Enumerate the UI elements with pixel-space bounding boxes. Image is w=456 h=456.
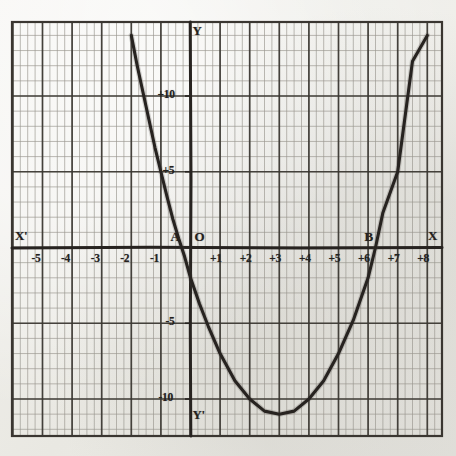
graph-figure: -5-4-3-2-1+1+2+3+4+5+6+7+8+10+5-5-10YY'X… xyxy=(0,0,456,456)
x-tick-label-plus5: +5 xyxy=(329,252,341,264)
x-tick-label-minus5: -5 xyxy=(32,252,41,264)
x-axis-name: X xyxy=(428,228,437,244)
x-tick-label-minus3: -3 xyxy=(91,252,100,264)
y-tick-label-plus10: +10 xyxy=(158,88,175,100)
y-tick-label-minus5: -5 xyxy=(166,315,175,327)
y-axis-name: Y xyxy=(193,23,202,39)
point-label-A: A xyxy=(171,229,180,245)
parabola-curve xyxy=(0,0,456,456)
x-tick-label-plus4: +4 xyxy=(299,252,311,264)
x-tick-label-plus3: +3 xyxy=(269,252,281,264)
x-tick-label-plus2: +2 xyxy=(240,252,252,264)
x-tick-label-plus6: +6 xyxy=(358,252,370,264)
x-negative-axis-name: X' xyxy=(15,228,27,244)
y-tick-label-plus5: +5 xyxy=(163,164,175,176)
point-label-B: B xyxy=(365,229,373,245)
y-tick-label-minus10: -10 xyxy=(159,391,173,403)
x-tick-label-plus8: +8 xyxy=(417,252,429,264)
origin-label: O xyxy=(195,229,205,245)
x-tick-label-minus1: -1 xyxy=(150,252,159,264)
x-tick-label-plus7: +7 xyxy=(388,252,400,264)
x-tick-label-minus2: -2 xyxy=(120,252,129,264)
y-negative-axis-name: Y' xyxy=(193,407,205,423)
x-tick-label-minus4: -4 xyxy=(61,252,70,264)
x-tick-label-plus1: +1 xyxy=(210,252,222,264)
